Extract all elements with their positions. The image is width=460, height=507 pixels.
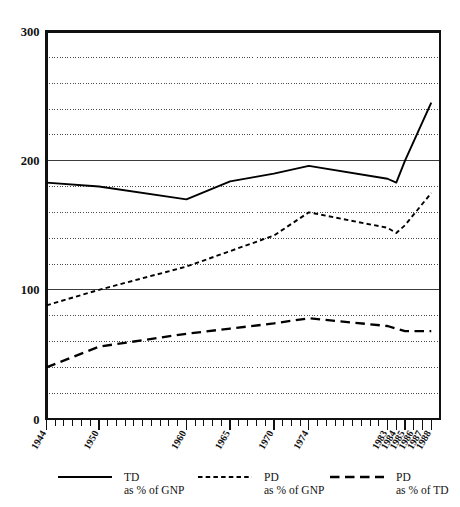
series-line-0: [47, 103, 432, 200]
axis-box: [47, 32, 441, 420]
x-tick-label: 1950: [81, 429, 101, 452]
x-tick-label: 1965: [212, 429, 232, 452]
chart-container: 0100200300 19441950196019651970197419831…: [0, 0, 460, 507]
legend-label-2: PD: [396, 471, 411, 483]
series-line-2: [47, 318, 432, 367]
y-tick-label: 300: [21, 25, 40, 39]
y-tick-label: 200: [21, 154, 40, 168]
legend-label-0: TD: [124, 471, 139, 483]
legend-sublabel-1: as % of GNP: [264, 484, 324, 496]
data-series: [47, 103, 432, 368]
x-axis-ticks: [47, 419, 432, 430]
y-tick-label: 100: [21, 283, 40, 297]
x-tick-label: 1974: [291, 429, 311, 452]
line-chart: 0100200300 19441950196019651970197419831…: [0, 0, 460, 507]
x-tick-label: 1944: [29, 429, 49, 452]
x-tick-label: 1970: [256, 429, 276, 452]
series-line-1: [47, 193, 432, 305]
y-axis-labels: 0100200300: [21, 25, 40, 427]
x-axis-labels: 1944195019601965197019741983198419851986…: [29, 429, 433, 452]
plot-frame: [47, 32, 441, 420]
legend-sublabel-2: as % of TD: [396, 484, 449, 496]
x-tick-label: 1960: [169, 429, 189, 452]
chart-legend: TDas % of GNPPDas % of GNPPDas % of TD: [58, 471, 449, 496]
gridlines: [47, 57, 441, 393]
legend-label-1: PD: [264, 471, 279, 483]
legend-sublabel-0: as % of GNP: [124, 484, 184, 496]
y-tick-label: 0: [33, 413, 39, 427]
